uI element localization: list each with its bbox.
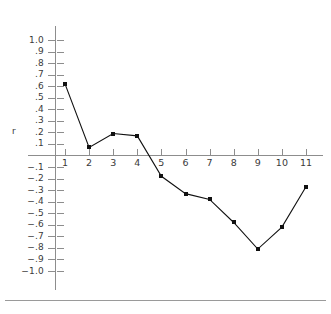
data-point-marker [63, 82, 67, 86]
y-tick-left [48, 167, 55, 168]
x-tick-label: 6 [178, 158, 194, 168]
data-point-marker [111, 132, 115, 136]
y-tick-right [57, 144, 64, 145]
y-tick-label: .1 [14, 139, 44, 148]
data-point-marker [135, 134, 139, 138]
y-tick-left [48, 121, 55, 122]
x-tick-label: 10 [274, 158, 290, 168]
y-tick-right [57, 121, 64, 122]
y-tick-right [57, 52, 64, 53]
y-tick-label: .4 [14, 105, 44, 114]
y-tick-label: −.6 [14, 220, 44, 229]
line-chart: r 1.0.9.8.7.6.5.4.3.2.1−.1−.2−.3−.4−.5−.… [0, 0, 331, 314]
y-tick-left [48, 271, 55, 272]
y-tick-right [57, 132, 64, 133]
y-tick-right [57, 40, 64, 41]
y-tick-left [48, 236, 55, 237]
y-tick-left [48, 63, 55, 64]
x-tick-label: 4 [129, 158, 145, 168]
y-tick-label: .9 [14, 47, 44, 56]
y-tick-label: .3 [14, 116, 44, 125]
y-tick-right [57, 236, 64, 237]
x-tick-label: 7 [202, 158, 218, 168]
x-tick-label: 5 [153, 158, 169, 168]
y-tick-label: .6 [14, 82, 44, 91]
x-tick [113, 149, 114, 155]
y-tick-left [48, 40, 55, 41]
x-tick [89, 149, 90, 155]
y-tick-right [57, 86, 64, 87]
x-tick-label: 11 [298, 158, 314, 168]
y-tick-right [57, 248, 64, 249]
x-tick-label: 1 [57, 158, 73, 168]
data-point-marker [87, 145, 91, 149]
x-tick-label: 3 [105, 158, 121, 168]
x-tick [306, 149, 307, 155]
y-tick-left [48, 86, 55, 87]
y-tick-left [48, 132, 55, 133]
y-tick-left [48, 98, 55, 99]
x-tick [234, 149, 235, 155]
y-tick-right [57, 98, 64, 99]
x-tick-label: 9 [250, 158, 266, 168]
y-tick-left [48, 248, 55, 249]
chart-page: r 1.0.9.8.7.6.5.4.3.2.1−.1−.2−.3−.4−.5−.… [0, 0, 331, 314]
y-tick-right [57, 202, 64, 203]
y-tick-left [48, 52, 55, 53]
x-tick-label: 8 [226, 158, 242, 168]
y-tick-right [57, 190, 64, 191]
y-tick-right [57, 225, 64, 226]
y-tick-label: −.3 [14, 186, 44, 195]
y-tick-label: −.5 [14, 209, 44, 218]
x-tick [258, 149, 259, 155]
x-tick [161, 149, 162, 155]
y-tick-right [57, 213, 64, 214]
data-point-marker [280, 225, 284, 229]
y-tick-label: .5 [14, 93, 44, 102]
y-tick-label: −.7 [14, 232, 44, 241]
data-point-marker [184, 192, 188, 196]
y-tick-label: 1.0 [14, 36, 44, 45]
y-tick-label: −1.0 [14, 267, 44, 276]
y-tick-label: .8 [14, 59, 44, 68]
data-point-marker [159, 174, 163, 178]
y-tick-label: −.9 [14, 255, 44, 264]
footer-divider [5, 300, 326, 301]
x-tick [65, 149, 66, 155]
y-tick-left [48, 213, 55, 214]
y-tick-label: −.1 [14, 163, 44, 172]
data-point-marker [232, 220, 236, 224]
y-tick-label: .2 [14, 128, 44, 137]
y-tick-right [57, 109, 64, 110]
y-tick-left [48, 259, 55, 260]
y-tick-label: −.2 [14, 174, 44, 183]
y-tick-label: .7 [14, 70, 44, 79]
y-tick-right [57, 179, 64, 180]
y-tick-left [48, 109, 55, 110]
y-tick-left [48, 225, 55, 226]
y-tick-right [57, 259, 64, 260]
x-tick [186, 149, 187, 155]
y-tick-left [48, 202, 55, 203]
y-tick-left [48, 144, 55, 145]
x-tick [210, 149, 211, 155]
y-tick-label: −.8 [14, 243, 44, 252]
y-tick-label: −.4 [14, 197, 44, 206]
x-tick [282, 149, 283, 155]
y-tick-right [57, 63, 64, 64]
y-tick-left [48, 190, 55, 191]
data-point-marker [208, 197, 212, 201]
y-tick-right [57, 75, 64, 76]
y-tick-left [48, 179, 55, 180]
y-tick-left [48, 75, 55, 76]
y-tick-right [57, 271, 64, 272]
data-point-marker [256, 247, 260, 251]
data-point-marker [304, 185, 308, 189]
x-tick [137, 149, 138, 155]
x-tick-label: 2 [81, 158, 97, 168]
